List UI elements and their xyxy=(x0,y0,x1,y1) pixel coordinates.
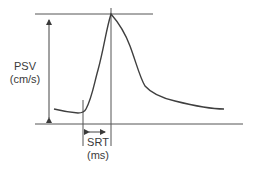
doppler-waveform-diagram: PSV (cm/s) SRT (ms) xyxy=(0,0,253,171)
srt-label: SRT xyxy=(87,136,109,148)
waveform-svg: PSV (cm/s) SRT (ms) xyxy=(0,0,253,171)
srt-unit-label: (ms) xyxy=(87,149,109,161)
velocity-waveform xyxy=(54,14,224,113)
psv-label: PSV xyxy=(14,60,37,72)
psv-unit-label: (cm/s) xyxy=(10,73,41,85)
